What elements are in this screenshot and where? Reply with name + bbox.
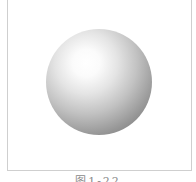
sphere-illustration [46, 29, 152, 135]
figure-caption: 图1-22 [0, 176, 196, 182]
